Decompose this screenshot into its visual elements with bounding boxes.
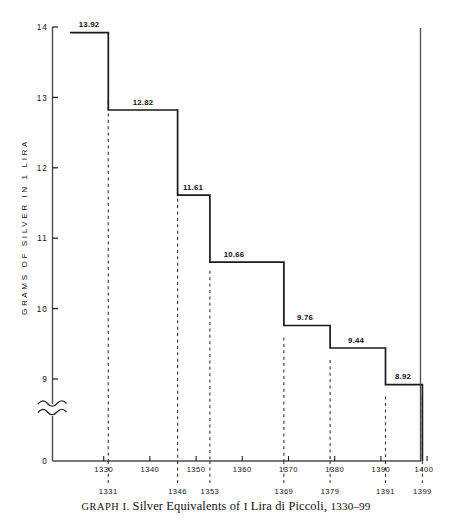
x-event-label-1391: 1391 <box>376 487 395 496</box>
x-event-label-group: 1331 1346 1353 1369 1379 1391 1399 <box>99 487 432 496</box>
value-label-9.44: 9.44 <box>348 336 364 345</box>
x-tick-label-1340: 1340 <box>140 465 159 474</box>
value-label-11.61: 11.61 <box>183 183 204 192</box>
event-dashed-lines <box>108 101 422 461</box>
x-tick-label-1360: 1360 <box>233 465 252 474</box>
y-tick-label-11: 11 <box>37 234 48 243</box>
y-tick-group: 14 13 12 11 10 9 0 <box>37 23 58 466</box>
caption-text: Silver Equivalents of <box>133 499 241 513</box>
value-label-group: 13.92 12.82 11.61 10.66 9.76 9.44 8.92 <box>79 20 412 381</box>
x-tick-label-1350: 1350 <box>187 465 206 474</box>
figure-container: 14 13 12 11 10 9 0 GRAMS OF SILVER IN 1 … <box>0 0 452 528</box>
y-tick-label-10: 10 <box>37 305 48 314</box>
y-tick-label-14: 14 <box>37 23 48 32</box>
step-line-series <box>70 33 422 461</box>
figure-caption: GRAPH I. Silver Equivalents of I Lira di… <box>0 499 452 514</box>
y-tick-label-0: 0 <box>42 457 48 466</box>
value-label-13.92: 13.92 <box>79 20 100 29</box>
y-tick-label-13: 13 <box>37 94 48 103</box>
caption-years: 1330–99 <box>330 500 370 512</box>
x-event-label-1346: 1346 <box>168 487 187 496</box>
y-tick-label-9: 9 <box>42 375 48 384</box>
value-label-9.76: 9.76 <box>297 313 313 322</box>
x-tick-label-1380: 1380 <box>325 465 344 474</box>
x-event-label-1369: 1369 <box>274 487 293 496</box>
value-label-8.92: 8.92 <box>395 372 411 381</box>
step-chart: 14 13 12 11 10 9 0 GRAMS OF SILVER IN 1 … <box>0 0 452 500</box>
y-tick-label-12: 12 <box>37 164 48 173</box>
x-tick-label-1390: 1390 <box>371 465 390 474</box>
x-tick-label-1370: 1370 <box>279 465 298 474</box>
x-event-label-1379: 1379 <box>321 487 340 496</box>
x-event-label-1353: 1353 <box>200 487 219 496</box>
value-label-10.66: 10.66 <box>224 250 245 259</box>
value-label-12.82: 12.82 <box>133 98 154 107</box>
x-event-label-1399: 1399 <box>413 487 432 496</box>
y-axis-title: GRAMS OF SILVER IN 1 LIRA <box>20 139 29 315</box>
x-tick-label-1400: 1400 <box>415 465 434 474</box>
x-tick-label-1330: 1330 <box>94 465 113 474</box>
x-tick-group: 1330 1340 1350 1360 1370 1380 1390 1400 <box>94 456 433 474</box>
x-event-label-1331: 1331 <box>99 487 118 496</box>
caption-text-2: Lira di Piccoli, <box>251 499 327 513</box>
caption-label: GRAPH <box>81 501 119 512</box>
